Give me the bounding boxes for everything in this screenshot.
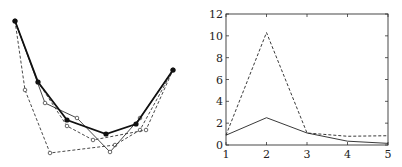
series-dashed bbox=[226, 33, 388, 137]
y-tick-label: 6 bbox=[216, 74, 223, 87]
plot-frame bbox=[226, 14, 388, 145]
y-tick-label: 8 bbox=[216, 52, 223, 65]
x-tick-label: 5 bbox=[385, 148, 392, 161]
y-tick-label: 4 bbox=[216, 95, 223, 108]
x-tick-label: 1 bbox=[223, 148, 230, 161]
x-tick-label: 3 bbox=[304, 148, 311, 161]
x-tick-label: 2 bbox=[263, 148, 270, 161]
y-tick-label: 12 bbox=[209, 8, 223, 21]
right-line-chart: 02468101212345 bbox=[0, 0, 402, 167]
x-tick-label: 4 bbox=[344, 148, 351, 161]
y-tick-label: 2 bbox=[216, 117, 223, 130]
series-solid bbox=[226, 118, 388, 144]
y-tick-label: 10 bbox=[209, 30, 223, 43]
